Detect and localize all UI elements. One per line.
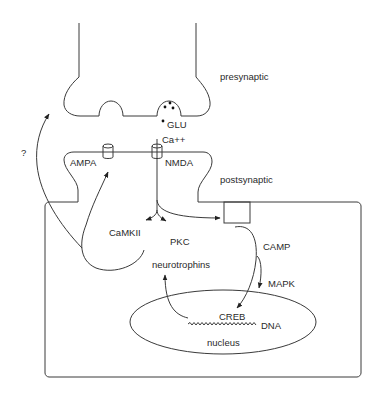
label-glu: GLU xyxy=(167,119,187,130)
dna-strand xyxy=(188,323,256,326)
vesicle-dot xyxy=(172,107,175,110)
label-neurotrophins: neurotrophins xyxy=(152,259,210,270)
arrow-camp-to-creb xyxy=(235,227,256,308)
presynaptic-terminal xyxy=(64,23,210,116)
arrow-to-camkii xyxy=(146,210,157,220)
label-creb: CREB xyxy=(219,311,245,322)
cyclase-box xyxy=(224,202,250,223)
vesicle-dot xyxy=(164,106,167,109)
arrow-to-mapk xyxy=(257,256,261,288)
label-presynaptic: presynaptic xyxy=(220,71,269,82)
label-nmda: NMDA xyxy=(165,157,194,168)
arrow-to-ampa xyxy=(82,172,144,270)
ampa-receptor xyxy=(103,144,113,159)
label-mapk: MAPK xyxy=(268,278,296,289)
label-camp: CAMP xyxy=(263,241,290,252)
glutamate-dot xyxy=(162,120,165,123)
vesicle-dot xyxy=(169,102,172,105)
label-ca: Ca++ xyxy=(162,134,186,145)
label-nucleus: nucleus xyxy=(207,337,240,348)
arrow-to-cyclase-box xyxy=(157,200,220,218)
label-postsynaptic: postsynaptic xyxy=(220,174,273,185)
label-camkii: CaMKII xyxy=(109,227,141,238)
label-question: ? xyxy=(21,147,26,158)
label-pkc: PKC xyxy=(170,236,190,247)
arrow-to-pkc xyxy=(157,210,166,221)
synapse-diagram: presynaptic postsynaptic GLU Ca++ AMPA N… xyxy=(0,0,380,395)
label-dna: DNA xyxy=(261,320,282,331)
label-ampa: AMPA xyxy=(70,157,97,168)
